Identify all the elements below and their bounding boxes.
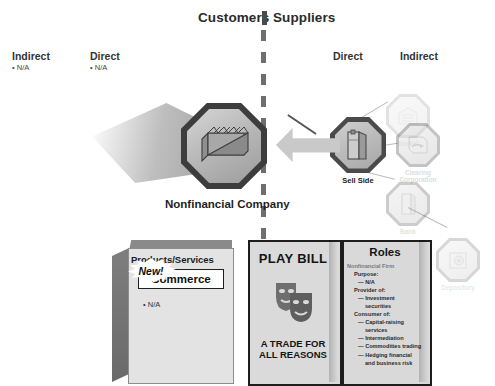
theatre-masks-icon [272,280,316,322]
clearing-icon [405,133,431,157]
playbill-title: PLAY BILL [248,251,338,266]
header-suppliers: Suppliers [273,10,335,25]
box-side-face [112,248,129,382]
roles-title: Roles [342,246,428,258]
roles-heading-purpose: Purpose: [347,270,425,278]
column-label-direct-left: Direct [90,50,120,62]
roles-item: securities [347,302,425,310]
products-services-box[interactable]: Products/Services Commerce New! • N/A [112,240,232,382]
column-label-indirect-left: Indirect [12,50,50,62]
roles-subject: Nonfinancial Firm [347,262,425,270]
node-clearing-corporation[interactable]: Clearing Corporation [396,123,444,184]
playbill-panel[interactable]: PLAY BILL A TRADE FOR ALL REASONS [248,240,338,382]
node-depository-label: Depository [436,284,480,291]
vault-icon [446,248,470,272]
roles-body: Nonfinancial Firm Purpose: — N/A Provide… [347,262,425,367]
roles-item: — Hedging financial [347,351,425,359]
roles-item: — Commodities trading [347,342,425,350]
node-bank-label: Bank [386,228,430,235]
playbill-page-curl [329,240,338,382]
column-label-indirect-right: Indirect [400,50,438,62]
roles-page-curl [419,240,428,382]
roles-item: — Intermediation [347,334,425,342]
roles-item: — N/A [347,278,425,286]
roles-item: and business risk [347,359,425,367]
factory-icon [196,125,252,167]
roles-item: — Investment [347,294,425,302]
roles-item: services [347,326,425,334]
playbill-footer: A TRADE FOR ALL REASONS [248,338,338,360]
node-depository[interactable]: Depository [436,238,480,291]
column-na-direct-left: • N/A [90,63,107,72]
roles-item: — Capital-raising [347,318,425,326]
node-nonfinancial-company[interactable] [181,103,267,189]
roles-heading-consumer: Consumer of: [347,310,425,318]
node-nonfinancial-company-label: Nonfinancial Company [165,198,290,210]
products-services-na: • N/A [143,300,160,309]
header-customers: Customers [198,10,269,25]
roles-panel[interactable]: Roles Nonfinancial Firm Purpose: — N/A P… [342,240,428,382]
roles-heading-provider: Provider of: [347,286,425,294]
bank-icon [396,191,420,217]
office-tower-icon [345,128,371,162]
node-sell-side-label: Sell Side [330,176,386,185]
node-bank[interactable]: Bank [386,182,430,235]
column-label-direct-right: Direct [333,50,363,62]
header-divider-mark [262,11,267,25]
column-na-indirect-left: • N/A [12,63,29,72]
